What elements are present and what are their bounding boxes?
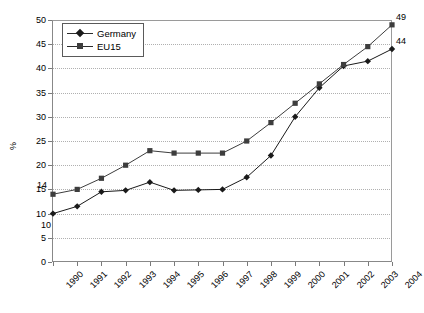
legend-label: Germany	[97, 28, 136, 39]
legend: Germany EU15	[62, 23, 144, 57]
square-marker-icon	[67, 41, 93, 52]
x-axis-tick-label: 1996	[209, 269, 230, 290]
x-axis-tick	[126, 262, 127, 266]
x-axis-tick	[101, 262, 102, 266]
data-point-square-marker	[147, 148, 152, 153]
data-point-diamond-marker	[219, 186, 225, 192]
y-axis-tick-label: 10	[16, 209, 46, 219]
x-axis-tick	[77, 262, 78, 266]
data-point-diamond-marker	[365, 58, 371, 64]
data-label: 44	[396, 36, 406, 46]
data-point-square-marker	[268, 120, 273, 125]
data-point-diamond-marker	[74, 203, 80, 209]
y-axis-tick-label: 45	[16, 39, 46, 49]
data-point-diamond-marker	[98, 189, 104, 195]
data-point-diamond-marker	[171, 187, 177, 193]
data-point-diamond-marker	[50, 210, 56, 216]
x-axis-tick	[392, 262, 393, 266]
data-point-square-marker	[341, 62, 346, 67]
x-axis-tick-label: 1992	[112, 269, 133, 290]
y-axis-label: %	[8, 142, 18, 150]
x-axis-tick	[295, 262, 296, 266]
data-point-square-marker	[293, 101, 298, 106]
data-point-square-marker	[244, 138, 249, 143]
data-label: 10	[41, 220, 51, 230]
data-point-square-marker	[50, 192, 55, 197]
x-axis-tick-label: 1998	[258, 269, 279, 290]
x-axis-tick	[174, 262, 175, 266]
x-axis-tick-label: 1999	[282, 269, 303, 290]
x-axis-tick-label: 1995	[185, 269, 206, 290]
y-axis-tick-label: 30	[16, 112, 46, 122]
data-label: 49	[396, 12, 406, 22]
x-axis-tick-label: 1994	[161, 269, 182, 290]
x-axis-tick	[198, 262, 199, 266]
diamond-marker-icon	[67, 28, 93, 39]
data-point-square-marker	[171, 151, 176, 156]
data-point-square-marker	[389, 22, 394, 27]
x-axis-tick-label: 1993	[137, 269, 158, 290]
data-point-diamond-marker	[122, 187, 128, 193]
data-point-square-marker	[220, 151, 225, 156]
data-point-diamond-marker	[147, 179, 153, 185]
data-label: 14	[37, 180, 47, 190]
x-axis-tick-label: 2002	[354, 269, 375, 290]
x-axis-tick	[53, 262, 54, 266]
legend-item-germany[interactable]: Germany	[67, 27, 136, 40]
x-axis-tick	[319, 262, 320, 266]
y-axis-tick-label: 5	[16, 233, 46, 243]
y-axis-tick	[48, 262, 52, 263]
legend-label: EU15	[97, 41, 121, 52]
y-axis-tick-label: 25	[16, 136, 46, 146]
data-point-diamond-marker	[389, 46, 395, 52]
data-point-square-marker	[365, 44, 370, 49]
x-axis-tick	[150, 262, 151, 266]
x-axis-tick-label: 1991	[88, 269, 109, 290]
data-point-square-marker	[317, 81, 322, 86]
x-axis-tick	[223, 262, 224, 266]
data-point-diamond-marker	[195, 187, 201, 193]
data-point-square-marker	[123, 163, 128, 168]
x-axis-tick-label: 2003	[379, 269, 400, 290]
x-axis-tick-label: 2004	[403, 269, 424, 290]
y-axis-tick-label: 40	[16, 63, 46, 73]
x-axis-tick-label: 1990	[64, 269, 85, 290]
y-axis-tick-label: 35	[16, 88, 46, 98]
y-axis-tick-label: 0	[16, 257, 46, 267]
legend-item-eu15[interactable]: EU15	[67, 40, 136, 53]
y-axis-tick-label: 20	[16, 160, 46, 170]
x-axis-tick	[271, 262, 272, 266]
x-axis-tick-label: 2000	[306, 269, 327, 290]
y-axis-tick-label: 50	[16, 15, 46, 25]
x-axis-tick-label: 1997	[233, 269, 254, 290]
x-axis-tick	[344, 262, 345, 266]
x-axis-tick	[247, 262, 248, 266]
data-point-square-marker	[196, 151, 201, 156]
x-axis-tick-label: 2001	[330, 269, 351, 290]
data-point-square-marker	[99, 176, 104, 181]
x-axis-tick	[368, 262, 369, 266]
data-point-square-marker	[75, 187, 80, 192]
